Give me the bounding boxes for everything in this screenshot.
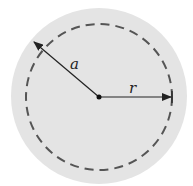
label-r: r [129, 79, 137, 97]
label-a: a [70, 55, 79, 73]
center-point [97, 95, 102, 100]
diagram-canvas: a r [0, 0, 193, 186]
